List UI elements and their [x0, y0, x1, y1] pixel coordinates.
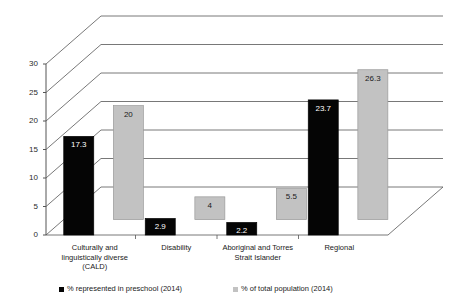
y-axis-tick-label: 25 — [22, 89, 38, 97]
bar-value-label: 17.3 — [59, 141, 99, 149]
bar — [308, 100, 338, 235]
legend-swatch-icon — [233, 287, 238, 292]
bar-chart: 051015202530 2017.342.95.52.226.323.7 Cu… — [0, 0, 468, 308]
bar-value-label: 5.5 — [271, 193, 311, 201]
y-axis-tick-label: 20 — [22, 117, 38, 125]
bar-value-label: 26.3 — [353, 75, 393, 83]
bar — [64, 136, 94, 235]
category-label-line: linguistically diverse — [47, 253, 143, 263]
legend-swatch-icon — [59, 287, 64, 292]
category-label-line: Regional — [291, 243, 387, 253]
bar-value-label: 4 — [190, 202, 230, 210]
legend-label: % of total population (2014) — [241, 285, 333, 293]
bar-value-label: 23.7 — [303, 105, 343, 113]
y-axis-tick-label: 5 — [22, 203, 38, 211]
gridline — [46, 16, 443, 64]
legend-label: % represented in preschool (2014) — [67, 285, 182, 293]
y-axis-tick-label: 10 — [22, 174, 38, 182]
legend-item[interactable]: % represented in preschool (2014) — [59, 285, 182, 293]
x-axis-ticks — [136, 235, 299, 239]
y-axis — [43, 64, 46, 235]
category-label-line: Strait Islander — [210, 253, 306, 263]
y-axis-tick-label: 0 — [22, 231, 38, 239]
bar — [113, 106, 143, 220]
bar — [358, 70, 388, 220]
legend-item[interactable]: % of total population (2014) — [233, 285, 333, 293]
y-axis-tick-label: 15 — [22, 146, 38, 154]
category-label: Regional — [291, 243, 387, 253]
bar-value-label: 20 — [108, 111, 148, 119]
y-axis-tick-label: 30 — [22, 60, 38, 68]
bars — [64, 70, 388, 235]
category-label-line: (CALD) — [47, 262, 143, 272]
bar-value-label: 2.9 — [140, 223, 180, 231]
bar-value-label: 2.2 — [222, 227, 262, 235]
